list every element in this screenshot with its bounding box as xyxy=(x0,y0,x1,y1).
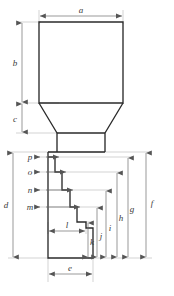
technical-drawing-canvas: a b c d e l p o n m k j i h g f xyxy=(0,0,174,296)
dim-label-a: a xyxy=(79,5,84,15)
dimension-labels: a b c d e l p o n m k j i h g f xyxy=(4,5,155,273)
dim-label-e: e xyxy=(68,263,72,273)
dimension-lines xyxy=(13,16,146,274)
dim-label-m: m xyxy=(27,202,34,212)
dim-label-o: o xyxy=(28,167,33,177)
dim-label-h: h xyxy=(119,213,124,223)
dim-label-f: f xyxy=(151,198,155,208)
dim-label-i: i xyxy=(109,223,112,233)
dim-label-p: p xyxy=(27,152,33,162)
dim-label-k: k xyxy=(90,237,95,247)
dim-label-g: g xyxy=(130,204,135,214)
dim-label-d: d xyxy=(4,200,9,210)
dim-label-n: n xyxy=(28,185,33,195)
dim-label-l: l xyxy=(66,220,69,230)
extension-lines xyxy=(8,10,152,282)
punch-profile-drawing: a b c d e l p o n m k j i h g f xyxy=(0,0,174,296)
dim-label-c: c xyxy=(13,114,17,124)
dim-label-j: j xyxy=(99,231,103,241)
dim-label-b: b xyxy=(13,58,18,68)
